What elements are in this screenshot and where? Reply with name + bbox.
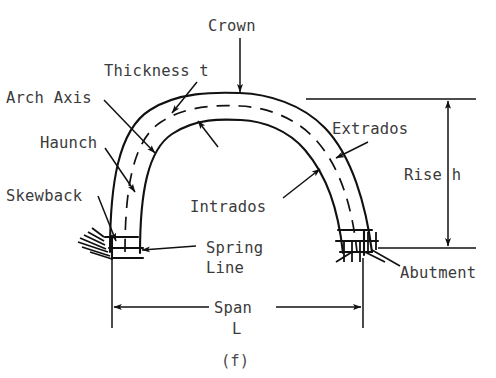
arch-axis-line: [125, 106, 357, 252]
thickness-leader: [172, 82, 218, 147]
arch-bridge-diagram: Crown Thickness t Arch Axis Haunch Skewb…: [0, 0, 496, 378]
arch-diagram-canvas: Crown Thickness t Arch Axis Haunch Skewb…: [0, 0, 496, 378]
intrados-curve: [140, 120, 343, 253]
label-haunch: Haunch: [40, 134, 97, 152]
label-intrados: Intrados: [190, 198, 266, 216]
label-crown: Crown: [208, 17, 256, 35]
arch-axis-leader: [104, 100, 155, 153]
figure-caption: (f): [221, 352, 249, 370]
label-skewback: Skewback: [6, 187, 83, 205]
label-spring-line-first: Spring: [206, 239, 263, 257]
right-hatching: [336, 232, 385, 262]
right-abutment-support: [336, 230, 385, 262]
intrados-leader: [283, 169, 320, 198]
extrados-curve: [110, 93, 372, 252]
spring-line-leader: [142, 246, 196, 250]
label-thickness: Thickness t: [104, 62, 209, 80]
label-span-second: L: [232, 320, 242, 338]
label-rise: Rise h: [404, 166, 461, 184]
left-hatching: [78, 228, 112, 259]
label-spring-line-second: Line: [206, 259, 244, 277]
label-abutment: Abutment: [400, 264, 476, 282]
label-arch-axis: Arch Axis: [6, 89, 92, 107]
label-span-first: Span: [214, 299, 252, 317]
label-extrados: Extrados: [332, 120, 408, 138]
